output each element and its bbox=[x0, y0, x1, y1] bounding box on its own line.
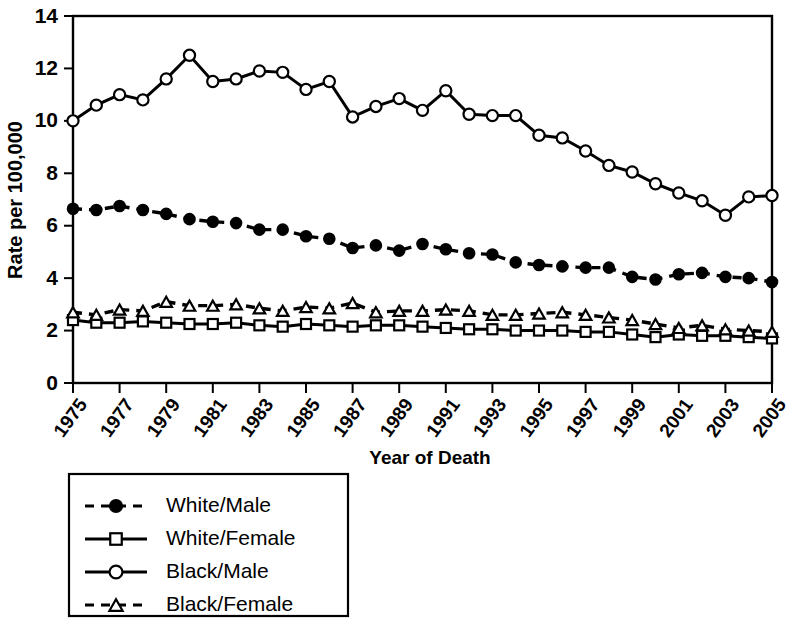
x-tick-label: 1991 bbox=[422, 394, 464, 441]
data-point-filled-circle bbox=[254, 224, 264, 234]
data-point-open-circle bbox=[137, 94, 148, 105]
x-tick-label: 1979 bbox=[142, 394, 184, 441]
data-point-open-square bbox=[418, 322, 428, 332]
data-point-filled-circle bbox=[347, 243, 357, 253]
data-point-open-square bbox=[581, 327, 591, 337]
data-point-open-circle bbox=[627, 166, 638, 177]
y-axis: 02468101214 bbox=[35, 4, 73, 394]
data-point-open-square bbox=[487, 324, 497, 334]
data-point-open-square bbox=[534, 326, 544, 336]
x-tick-label: 2003 bbox=[702, 394, 744, 441]
data-point-open-circle bbox=[766, 190, 777, 201]
data-point-open-circle bbox=[580, 145, 591, 156]
data-point-filled-circle bbox=[68, 203, 78, 213]
data-point-open-square bbox=[511, 326, 521, 336]
data-point-filled-circle bbox=[650, 274, 660, 284]
data-point-filled-circle bbox=[674, 269, 684, 279]
data-point-open-circle bbox=[231, 73, 242, 84]
x-tick-label: 2001 bbox=[655, 394, 697, 441]
x-tick-label: 1989 bbox=[375, 394, 417, 441]
data-point-open-circle bbox=[394, 93, 405, 104]
x-axis: 1975197719791981198319851987198919911993… bbox=[49, 383, 790, 441]
data-point-open-circle bbox=[743, 191, 754, 202]
x-tick-label: 2005 bbox=[748, 394, 790, 441]
data-point-filled-circle bbox=[464, 248, 474, 258]
data-point-open-circle bbox=[673, 187, 684, 198]
data-point-open-circle bbox=[184, 50, 195, 61]
data-point-filled-circle bbox=[324, 234, 334, 244]
data-point-filled-circle bbox=[697, 268, 707, 278]
data-point-open-circle bbox=[533, 130, 544, 141]
data-point-open-circle bbox=[557, 132, 568, 143]
data-point-filled-circle bbox=[110, 500, 122, 512]
x-axis-title: Year of Death bbox=[369, 447, 490, 468]
data-point-filled-circle bbox=[580, 262, 590, 272]
data-point-filled-circle bbox=[208, 217, 218, 227]
data-point-open-square bbox=[115, 318, 125, 328]
data-point-open-square bbox=[231, 318, 241, 328]
data-point-open-circle bbox=[440, 85, 451, 96]
data-point-open-circle bbox=[91, 100, 102, 111]
data-point-open-circle bbox=[161, 73, 172, 84]
data-point-filled-circle bbox=[231, 218, 241, 228]
x-tick-label: 1997 bbox=[562, 394, 604, 441]
data-point-open-square bbox=[301, 319, 311, 329]
data-point-open-circle bbox=[650, 178, 661, 189]
data-point-filled-circle bbox=[301, 231, 311, 241]
y-tick-label: 2 bbox=[46, 318, 58, 341]
data-point-open-circle bbox=[370, 101, 381, 112]
data-point-open-circle bbox=[324, 76, 335, 87]
x-tick-label: 1993 bbox=[469, 394, 511, 441]
data-point-open-circle bbox=[254, 65, 265, 76]
x-tick-label: 1985 bbox=[282, 394, 324, 441]
data-point-filled-circle bbox=[604, 262, 614, 272]
data-point-open-circle bbox=[487, 110, 498, 121]
data-point-open-square bbox=[651, 332, 661, 342]
y-tick-label: 14 bbox=[35, 4, 59, 27]
x-tick-label: 1995 bbox=[515, 394, 557, 441]
data-point-open-square bbox=[138, 316, 148, 326]
data-point-open-circle bbox=[697, 195, 708, 206]
data-point-filled-circle bbox=[278, 224, 288, 234]
data-point-filled-circle bbox=[138, 205, 148, 215]
data-point-filled-circle bbox=[557, 261, 567, 271]
y-tick-label: 8 bbox=[46, 161, 58, 184]
data-point-open-square bbox=[185, 319, 195, 329]
y-axis-title: Rate per 100,000 bbox=[4, 121, 26, 279]
data-point-filled-circle bbox=[744, 273, 754, 283]
data-point-filled-circle bbox=[441, 244, 451, 254]
data-point-open-square bbox=[324, 320, 334, 330]
data-point-open-circle bbox=[720, 210, 731, 221]
data-point-filled-circle bbox=[720, 272, 730, 282]
data-point-filled-circle bbox=[161, 209, 171, 219]
x-tick-label: 1981 bbox=[189, 394, 231, 441]
data-point-open-circle bbox=[114, 89, 125, 100]
data-point-filled-circle bbox=[184, 214, 194, 224]
legend-item-label: Black/Male bbox=[166, 559, 269, 582]
x-tick-label: 1983 bbox=[236, 394, 278, 441]
data-point-open-square bbox=[394, 320, 404, 330]
data-point-filled-circle bbox=[371, 240, 381, 250]
rate-per-100000-line-chart: 02468101214 1975197719791981198319851987… bbox=[0, 0, 799, 625]
data-point-filled-circle bbox=[627, 272, 637, 282]
y-tick-label: 10 bbox=[35, 108, 58, 131]
data-point-open-circle bbox=[67, 115, 78, 126]
data-point-open-square bbox=[441, 323, 451, 333]
data-point-open-circle bbox=[347, 111, 358, 122]
chart-figure: 02468101214 1975197719791981198319851987… bbox=[0, 0, 799, 625]
data-point-filled-circle bbox=[114, 201, 124, 211]
data-point-filled-circle bbox=[511, 257, 521, 267]
x-tick-label: 1987 bbox=[329, 394, 371, 441]
legend-item-label: Black/Female bbox=[166, 592, 293, 615]
data-point-open-square bbox=[110, 533, 122, 545]
data-point-filled-circle bbox=[91, 205, 101, 215]
data-point-open-square bbox=[208, 319, 218, 329]
data-point-open-circle bbox=[603, 160, 614, 171]
data-point-filled-circle bbox=[417, 239, 427, 249]
data-point-open-square bbox=[604, 327, 614, 337]
data-point-open-circle bbox=[207, 76, 218, 87]
data-point-open-square bbox=[254, 320, 264, 330]
legend-item-label: White/Female bbox=[166, 526, 296, 549]
data-point-filled-circle bbox=[534, 260, 544, 270]
legend-item-label: White/Male bbox=[166, 493, 271, 516]
